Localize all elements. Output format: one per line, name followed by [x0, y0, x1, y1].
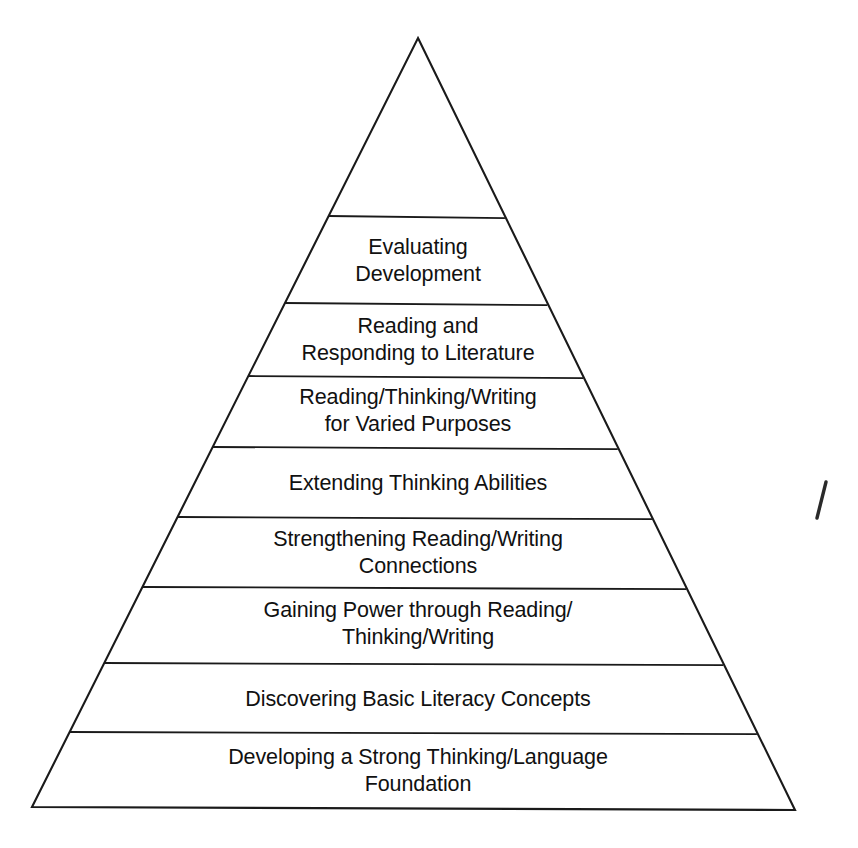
- scan-tick-mark: [817, 482, 826, 518]
- pyramid-diagram-canvas: Evaluating DevelopmentReading and Respon…: [0, 0, 858, 848]
- pyramid-outline-svg: [0, 0, 858, 848]
- pyramid-triangle-outline: [32, 38, 795, 810]
